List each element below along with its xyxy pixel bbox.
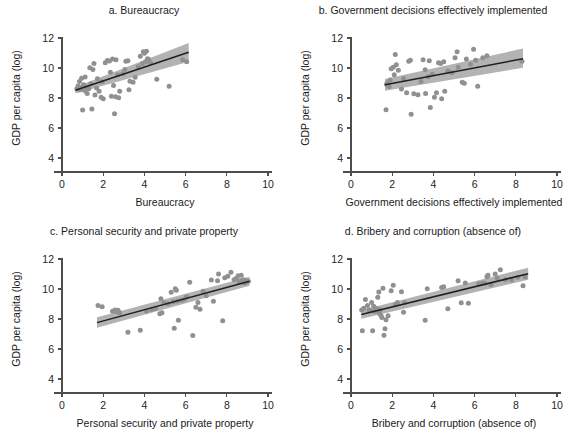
panel-b: b. Government decisions effectively impl… <box>289 0 577 221</box>
panel-a: a. Bureaucracy46810120246810BureaucracyG… <box>0 0 288 221</box>
data-point <box>187 280 192 285</box>
data-point <box>485 273 490 278</box>
data-point <box>428 105 433 110</box>
data-point <box>176 318 181 323</box>
y-axis-title: GDP per capita (log) <box>299 50 311 146</box>
data-point <box>386 313 391 318</box>
plot-b: b. Government decisions effectively impl… <box>289 0 577 221</box>
x-tick-label: 2 <box>389 178 395 190</box>
x-tick-label: 0 <box>59 399 65 411</box>
data-point <box>423 67 428 72</box>
data-point <box>215 278 220 283</box>
y-tick-label: 8 <box>337 92 343 104</box>
data-point <box>459 300 464 305</box>
data-point <box>158 296 163 301</box>
x-tick-label: 8 <box>513 178 519 190</box>
data-point <box>388 78 393 83</box>
data-point <box>462 81 467 86</box>
x-axis-title: Bureaucracy <box>136 196 196 208</box>
y-tick-label: 12 <box>331 32 343 44</box>
x-tick-label: 2 <box>100 178 106 190</box>
data-point <box>408 58 413 63</box>
plot-a: a. Bureaucracy46810120246810BureaucracyG… <box>0 0 288 221</box>
x-tick-label: 8 <box>224 399 230 411</box>
y-tick-label: 12 <box>42 253 54 265</box>
data-point <box>375 295 380 300</box>
panel-title: d. Bribery and corruption (absence of) <box>345 225 521 237</box>
regression-line <box>361 274 528 315</box>
data-point <box>471 47 476 52</box>
data-point <box>211 299 216 304</box>
x-tick-label: 2 <box>100 399 106 411</box>
y-axis-title: GDP per capita (log) <box>10 271 22 367</box>
data-point <box>441 284 446 289</box>
x-tick-label: 6 <box>472 178 478 190</box>
data-point <box>111 83 116 88</box>
data-point <box>91 61 96 66</box>
data-point <box>401 310 406 315</box>
data-point <box>423 318 428 323</box>
scatter-points <box>96 270 251 338</box>
x-tick-label: 10 <box>551 178 563 190</box>
x-tick-label: 2 <box>389 399 395 411</box>
data-point <box>392 72 397 77</box>
y-tick-label: 6 <box>337 343 343 355</box>
y-tick-label: 4 <box>48 152 54 164</box>
data-point <box>521 283 526 288</box>
data-point <box>456 278 461 283</box>
data-point <box>391 283 396 288</box>
x-tick-label: 8 <box>513 399 519 411</box>
data-point <box>442 89 447 94</box>
data-point <box>167 84 172 89</box>
data-point <box>133 75 138 80</box>
data-point <box>138 328 143 333</box>
confidence-band <box>385 49 523 91</box>
x-axis-title: Bribery and corruption (absence of) <box>372 417 537 429</box>
data-point <box>475 84 480 89</box>
y-tick-label: 10 <box>331 283 343 295</box>
data-point <box>101 96 106 101</box>
data-point <box>370 328 375 333</box>
data-point <box>382 326 387 331</box>
x-tick-label: 4 <box>430 399 436 411</box>
y-tick-label: 12 <box>331 253 343 265</box>
data-point <box>90 67 95 72</box>
data-point <box>434 90 439 95</box>
y-tick-label: 10 <box>42 283 54 295</box>
data-point <box>395 300 400 305</box>
data-point <box>144 49 149 54</box>
data-point <box>220 318 225 323</box>
data-point <box>363 297 368 302</box>
x-tick-label: 10 <box>262 178 274 190</box>
data-point <box>138 54 143 59</box>
x-axis-title: Government decisions effectively impleme… <box>346 196 563 208</box>
data-point <box>239 273 244 278</box>
data-point <box>404 90 409 95</box>
data-point <box>159 310 164 315</box>
data-point <box>423 91 428 96</box>
data-point <box>126 87 131 92</box>
data-point <box>95 76 100 81</box>
data-point <box>97 89 102 94</box>
x-tick-label: 8 <box>224 178 230 190</box>
regression-line <box>385 59 523 85</box>
x-tick-label: 0 <box>59 178 65 190</box>
data-point <box>184 59 189 64</box>
data-point <box>85 91 90 96</box>
x-axis-title: Personal security and private property <box>77 417 255 429</box>
data-point <box>498 267 503 272</box>
panel-c: c. Personal security and private propert… <box>0 221 288 442</box>
x-tick-label: 4 <box>141 178 147 190</box>
data-point <box>169 290 174 295</box>
y-tick-label: 4 <box>337 373 343 385</box>
data-point <box>125 58 130 63</box>
x-tick-label: 6 <box>472 399 478 411</box>
y-axis-title: GDP per capita (log) <box>299 271 311 367</box>
data-point <box>172 326 177 331</box>
data-point <box>117 310 122 315</box>
data-point <box>117 89 122 94</box>
y-tick-label: 6 <box>48 343 54 355</box>
data-point <box>122 67 127 72</box>
x-tick-label: 6 <box>183 399 189 411</box>
data-point <box>396 68 401 73</box>
